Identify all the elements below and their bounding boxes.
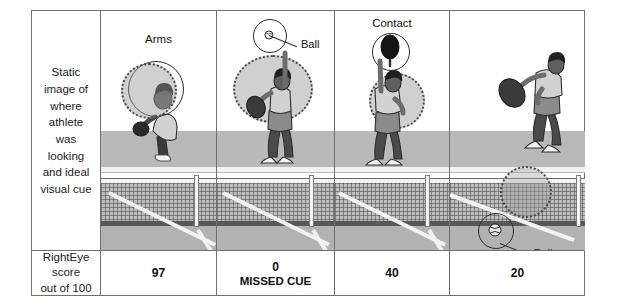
panel-4-score-cell: 20 <box>450 251 585 295</box>
net-post <box>309 175 314 227</box>
score-row-label-line2: out of 100 <box>40 281 91 297</box>
row-label-cell: Static image of where athlete was lookin… <box>32 11 100 251</box>
panel-1-gaze-circle <box>121 63 177 119</box>
panel-1-score: 97 <box>152 266 165 280</box>
panel-4-ball-icon <box>488 223 502 237</box>
panel-1-cell: Arms <box>101 11 216 251</box>
figure-root: Static image of where athlete was lookin… <box>0 0 617 306</box>
panel-3-player <box>351 53 421 173</box>
panel-3-cell: Contact <box>335 11 449 251</box>
panel-4-score: 20 <box>511 266 524 280</box>
net-mesh <box>217 183 334 221</box>
panel-4-player <box>492 37 582 157</box>
panel-2-score: 0 <box>272 260 279 274</box>
row-label-text: Static image of where athlete was lookin… <box>32 11 100 251</box>
panel-3-top-label: Contact <box>335 17 449 29</box>
net-post <box>576 175 581 227</box>
panel-2-player <box>241 49 311 169</box>
net-post <box>194 175 199 227</box>
panel-2-cell: Ball <box>217 11 334 251</box>
score-row-label-line1: RightEye score <box>32 250 100 281</box>
net-post <box>425 175 430 227</box>
panel-2-score-note: MISSED CUE <box>240 275 312 287</box>
score-row-label-cell: RightEye score out of 100 <box>32 251 100 295</box>
panel-4-gaze-circle <box>500 166 552 218</box>
panel-3-score: 40 <box>385 266 398 280</box>
panel-3-score-cell: 40 <box>335 251 449 295</box>
panel-1-top-label: Arms <box>101 33 216 45</box>
comparison-table: Static image of where athlete was lookin… <box>31 10 585 296</box>
panel-4-cell: Ball <box>450 11 585 251</box>
panel-1-score-cell: 97 <box>101 251 216 295</box>
panel-2-score-cell: 0 MISSED CUE <box>217 251 334 295</box>
